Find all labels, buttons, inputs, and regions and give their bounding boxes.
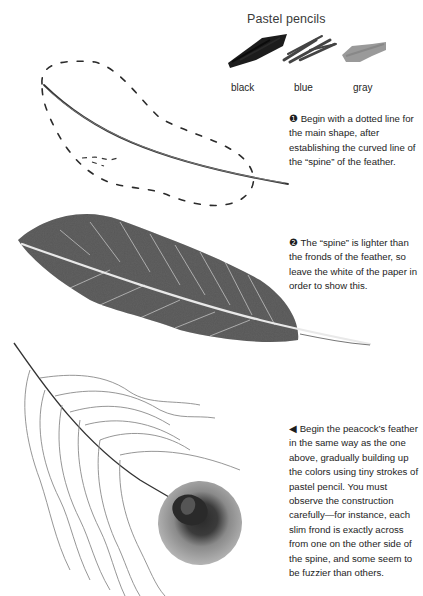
left-arrow-marker-icon: ◀: [289, 423, 297, 434]
step-1-marker-icon: ❶: [289, 113, 298, 124]
peacock-feather: [14, 343, 254, 596]
step-2-marker-icon: ❷: [289, 237, 298, 248]
page-heading: Pastel pencils: [247, 12, 326, 26]
caption-step-2-text: The “spine” is lighter than the fronds o…: [289, 237, 417, 291]
caption-peacock-text: Begin the peacock’s feather in the same …: [289, 423, 418, 578]
caption-step-1: ❶ Begin with a dotted line for the main …: [289, 112, 423, 170]
caption-step-2: ❷ The “spine” is lighter than the fronds…: [289, 236, 423, 294]
pencil-swatches: [228, 34, 386, 68]
swatch-blue: [284, 36, 336, 62]
caption-peacock: ◀ Begin the peacock’s feather in the sam…: [289, 422, 423, 580]
swatch-label-black: black: [231, 82, 254, 93]
swatch-label-gray: gray: [353, 82, 372, 93]
swatch-label-blue: blue: [294, 82, 313, 93]
swatch-gray: [342, 42, 386, 62]
caption-step-1-text: Begin with a dotted line for the main sh…: [289, 113, 415, 167]
swatch-black: [228, 34, 287, 68]
